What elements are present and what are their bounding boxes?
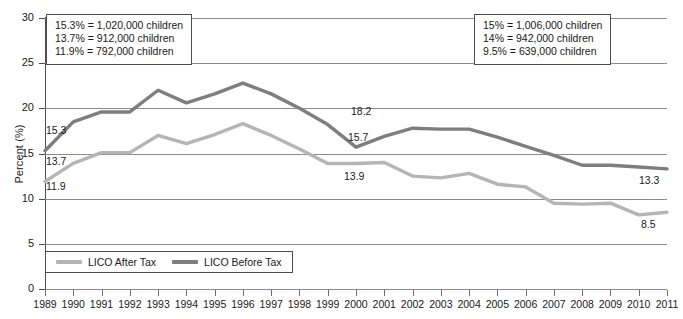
legend-swatch-after-tax: [56, 260, 82, 264]
callout-2000-before: 15.7: [348, 131, 368, 143]
chart-legend: LICO After Tax LICO Before Tax: [45, 251, 293, 273]
callout-1989-after: 11.9: [46, 180, 66, 192]
legend-item-lico-after-tax[interactable]: LICO After Tax: [56, 256, 156, 268]
note-box-right: 15% = 1,006,000 children 14% = 942,000 c…: [474, 14, 611, 65]
note-right-line-2: 14% = 942,000 children: [483, 32, 602, 45]
note-right-line-3: 9.5% = 639,000 children: [483, 45, 602, 58]
legend-swatch-before-tax: [172, 260, 198, 264]
note-right-line-1: 15% = 1,006,000 children: [483, 19, 602, 32]
callout-1999-before: 18.2: [351, 105, 371, 117]
callout-1989-after-high: 13.7: [46, 155, 66, 167]
note-left-line-1: 15.3% = 1,020,000 children: [55, 19, 183, 32]
callout-2011-after: 8.5: [641, 218, 656, 230]
legend-label-before-tax: LICO Before Tax: [204, 256, 281, 268]
callout-1989-before: 15.3: [46, 124, 66, 136]
series-line-lico-before-tax: [45, 83, 667, 169]
note-left-line-3: 11.9% = 792,000 children: [55, 45, 183, 58]
legend-item-lico-before-tax[interactable]: LICO Before Tax: [172, 256, 281, 268]
legend-label-after-tax: LICO After Tax: [88, 256, 156, 268]
callout-2000-after: 13.9: [344, 170, 364, 182]
callout-2011-before: 13.3: [639, 174, 659, 186]
note-box-left: 15.3% = 1,020,000 children 13.7% = 912,0…: [46, 14, 192, 65]
note-left-line-2: 13.7% = 912,000 children: [55, 32, 183, 45]
